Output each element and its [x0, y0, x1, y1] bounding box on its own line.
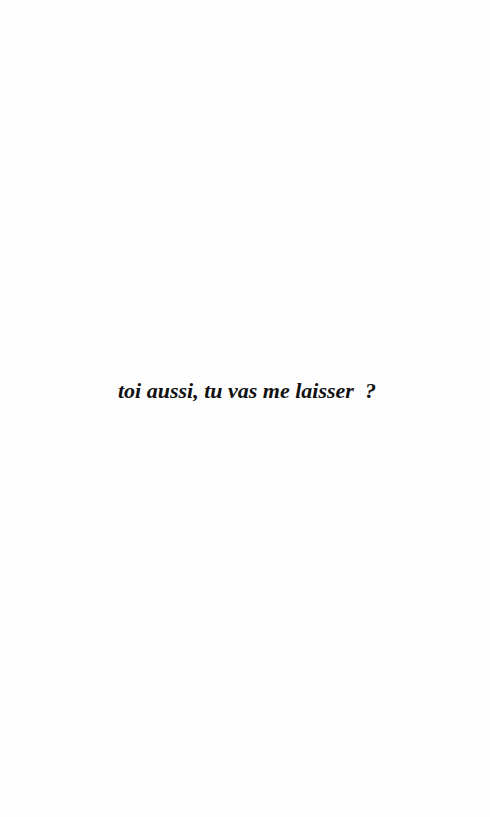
page: toi aussi, tu vas me laisser ? [0, 0, 490, 817]
quote-text: toi aussi, tu vas me laisser ? [118, 378, 376, 404]
